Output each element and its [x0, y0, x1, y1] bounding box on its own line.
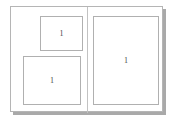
- content-frame-upper-right[interactable]: 1: [40, 16, 83, 51]
- right-page[interactable]: 1: [88, 7, 164, 113]
- content-frame-full-page[interactable]: 1: [93, 16, 159, 105]
- content-frame-lower-left[interactable]: 1: [23, 56, 81, 105]
- content-frame-label: 1: [124, 57, 128, 65]
- page-layout-canvas: 1 1 1: [0, 0, 173, 125]
- page-spread[interactable]: 1 1 1: [10, 6, 163, 112]
- content-frame-label: 1: [50, 77, 54, 85]
- left-page[interactable]: 1 1: [11, 7, 87, 113]
- content-frame-label: 1: [60, 30, 64, 38]
